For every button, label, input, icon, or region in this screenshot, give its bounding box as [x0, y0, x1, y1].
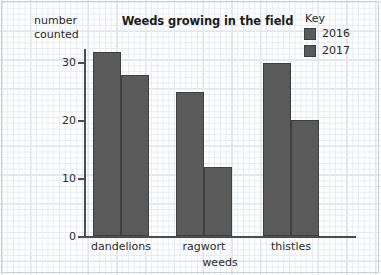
x-category-label-ragwort: ragwort [164, 240, 244, 253]
legend-item-2017: 2017 [304, 43, 376, 59]
y-tick-label-30: 30 [36, 57, 76, 68]
legend: Key 2016 2017 [304, 12, 376, 59]
bar-dandelions-2017 [121, 75, 149, 236]
legend-title: Key [304, 12, 376, 25]
chart-title: Weeds growing in the field [120, 14, 295, 28]
y-tick-label-10-wrap: 10 [34, 173, 76, 184]
legend-label-2016: 2016 [322, 28, 350, 40]
y-tick-30 [78, 62, 85, 64]
bar-ragwort-2016 [176, 92, 204, 236]
legend-item-2016: 2016 [304, 26, 376, 42]
x-category-label-dandelions: dandelions [81, 240, 161, 253]
y-tick-label-0: 0 [36, 231, 76, 242]
x-axis-line [84, 236, 356, 238]
y-axis-title-line2: counted [34, 28, 90, 42]
y-axis-title-line1: number [34, 14, 90, 28]
y-tick-20 [78, 120, 85, 122]
bar-thistles-2017 [291, 120, 319, 236]
y-tick-label-20-wrap: 20 [34, 115, 76, 126]
legend-swatch-2017 [304, 45, 316, 57]
x-category-label-thistles: thistles [251, 240, 331, 253]
legend-label-2017: 2017 [322, 45, 350, 57]
bar-ragwort-2017 [204, 167, 232, 236]
y-axis-line [84, 49, 86, 238]
y-axis-title: number counted [34, 14, 90, 41]
y-tick-label-20: 20 [36, 115, 76, 126]
y-tick-label-30-wrap: 30 [34, 57, 76, 68]
y-tick-label-10: 10 [36, 173, 76, 184]
x-axis-title: weeds [84, 256, 356, 269]
bar-chart-figure: Weeds growing in the field number counte… [0, 0, 381, 275]
y-tick-10 [78, 178, 85, 180]
legend-swatch-2016 [304, 28, 316, 40]
bar-dandelions-2016 [93, 52, 121, 236]
bar-thistles-2016 [263, 63, 291, 236]
y-tick-label-0-wrap: 0 [34, 231, 76, 242]
y-tick-0 [78, 236, 85, 238]
